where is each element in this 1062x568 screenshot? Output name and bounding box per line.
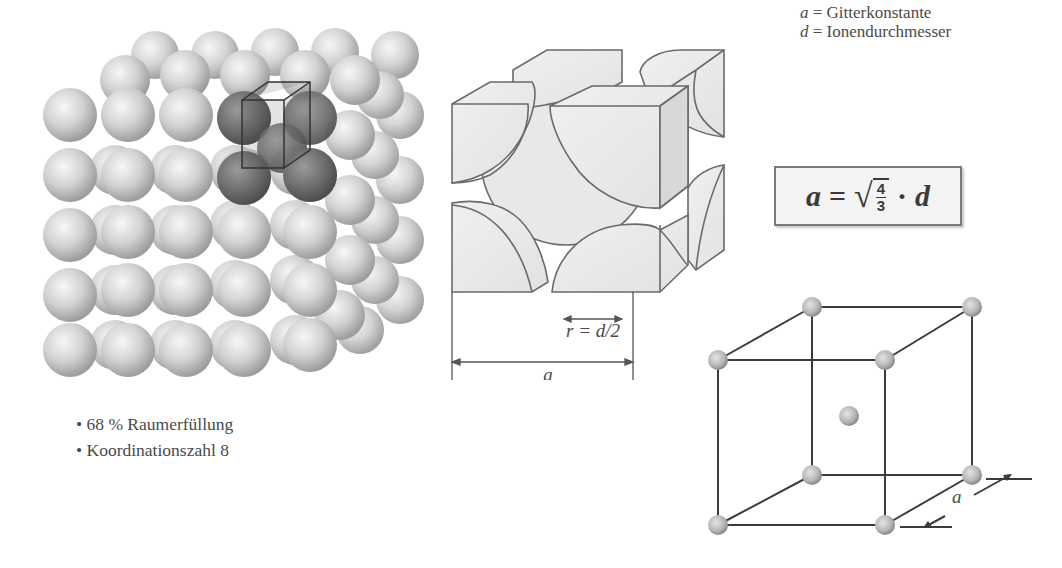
square-root: √ 4 3 (854, 177, 889, 215)
body-center-atom (839, 406, 859, 426)
property-coordination-number: Koordinationszahl 8 (76, 437, 233, 463)
bcc-sphere-packing-illustration (20, 20, 430, 400)
legend-equals: = (813, 3, 823, 22)
legend-item-lattice-constant: a = Gitterkonstante (800, 3, 951, 22)
legend-symbol: d (800, 22, 809, 41)
edge-length-label: a (528, 364, 568, 380)
formula-rhs: d (915, 179, 930, 213)
formula-operator: · (897, 179, 907, 213)
radius-label: r = d/2 (538, 320, 648, 342)
legend-symbol: a (800, 3, 809, 22)
formula-lhs: a (806, 179, 821, 213)
legend-text: Gitterkonstante (827, 3, 932, 22)
legend-item-ion-diameter: d = Ionendurchmesser (800, 22, 951, 41)
cube-edges (718, 307, 1032, 527)
fraction: 4 3 (873, 178, 889, 214)
fraction-numerator: 4 (876, 181, 886, 198)
formula-equals: = (829, 179, 846, 213)
property-packing-density: 68 % Raumerfüllung (76, 411, 233, 437)
legend-equals: = (813, 22, 823, 41)
radical-sign-icon: √ (854, 177, 873, 215)
lattice-constant-formula: a = √ 4 3 · d (774, 166, 962, 226)
property-list: 68 % Raumerfüllung Koordinationszahl 8 (76, 411, 233, 463)
symbol-legend: a = Gitterkonstante d = Ionendurchmesser (800, 3, 951, 41)
bcc-wireframe-cube: a (690, 270, 1062, 568)
fraction-denominator: 3 (877, 198, 885, 214)
lattice-atoms (708, 297, 982, 535)
legend-text: Ionendurchmesser (827, 22, 952, 41)
cube-edge-label: a (952, 486, 982, 508)
